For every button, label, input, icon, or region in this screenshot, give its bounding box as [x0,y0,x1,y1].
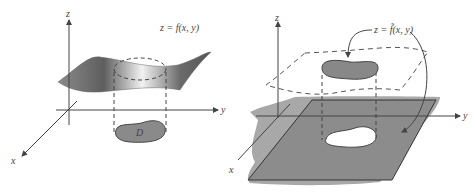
left-axis-z-label: z [66,8,70,19]
right-axis-z-label: z [275,12,279,23]
left-panel [22,20,218,156]
left-surface-label: z = f(x, y) [160,22,199,33]
right-panel [238,22,460,185]
region-d-label: D [136,127,143,138]
right-axis-y-label: y [463,110,467,121]
left-axis-x-label: x [11,155,15,166]
right-surface-label: z = f̃(x, y) [374,24,413,35]
raised-region [322,60,378,79]
right-axis-x-label: x [229,164,233,175]
left-axis-y-label: y [221,104,225,115]
